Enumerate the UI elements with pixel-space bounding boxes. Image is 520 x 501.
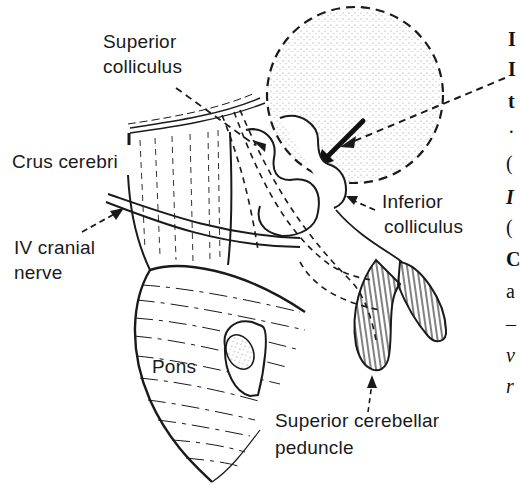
label-crus-cerebri: Crus cerebri: [12, 151, 118, 173]
margin-fragment: a: [506, 280, 515, 302]
label-pons: Pons: [152, 356, 196, 378]
margin-fragment: (: [506, 216, 513, 238]
margin-fragment: t: [508, 90, 515, 112]
margin-fragment: r: [506, 375, 514, 397]
label-inferior-colliculus-line2: colliculus: [384, 216, 463, 238]
margin-fragment: ·: [508, 121, 515, 143]
crus-cerebri-shape: [128, 130, 231, 270]
margin-fragment: I: [508, 58, 516, 80]
margin-fragment: I: [506, 186, 514, 208]
label-superior-colliculus-line1: Superior: [103, 31, 176, 53]
margin-fragment: C: [506, 248, 520, 270]
stippled-region: [267, 7, 443, 183]
pons-cut-section: [221, 321, 266, 396]
label-inferior-colliculus-line1: Inferior: [382, 191, 443, 213]
margin-fragment: –: [506, 313, 516, 335]
margin-fragment: v: [506, 344, 515, 366]
superior-cerebellar-peduncle-shape: [354, 260, 446, 370]
margin-fragment: (: [506, 152, 513, 174]
label-iv-cranial-nerve-line1: IV cranial: [14, 237, 95, 259]
upper-band: [128, 93, 265, 133]
label-superior-cerebellar-peduncle-line2: peduncle: [275, 437, 354, 459]
margin-fragment: I: [508, 28, 516, 50]
label-superior-cerebellar-peduncle-line1: Superior cerebellar: [275, 410, 439, 432]
label-superior-colliculus-line2: colliculus: [103, 56, 182, 78]
label-iv-cranial-nerve-line2: nerve: [14, 262, 63, 284]
